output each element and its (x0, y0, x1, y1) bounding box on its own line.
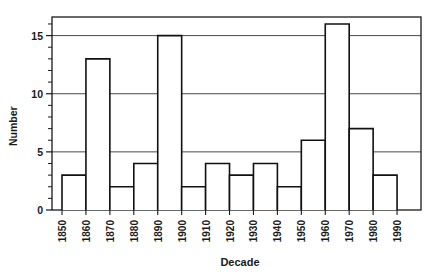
bar-fill-1890 (158, 36, 182, 210)
chart-canvas: 051015 185018601870188018901900191019201… (0, 0, 438, 278)
x-axis-tick-labels: 1850186018701880189019001910192019301940… (57, 220, 403, 243)
bar-1870 (110, 187, 134, 210)
x-tick-label-1890: 1890 (153, 220, 164, 243)
y-tick-label-10: 10 (31, 88, 43, 100)
bar-1860 (86, 59, 110, 210)
bar-fill-1860 (86, 59, 110, 210)
x-tick-label-1860: 1860 (81, 220, 92, 243)
bar-fill-1980 (373, 175, 397, 210)
x-tick-label-1990: 1990 (392, 220, 403, 243)
bar-fill-1900 (182, 187, 206, 210)
bar-fill-1920 (230, 175, 254, 210)
bar-1930 (253, 163, 277, 210)
y-axis-title: Number (7, 106, 19, 146)
bar-1890 (158, 36, 182, 210)
bar-fill-1930 (253, 163, 277, 210)
x-tick-label-1950: 1950 (296, 220, 307, 243)
y-tick-label-0: 0 (37, 204, 43, 216)
bar-fill-1850 (62, 175, 86, 210)
bar-1970 (349, 129, 373, 210)
x-tick-label-1920: 1920 (225, 220, 236, 243)
bar-fill-1870 (110, 187, 134, 210)
x-tick-label-1930: 1930 (248, 220, 259, 243)
x-tick-label-1900: 1900 (177, 220, 188, 243)
bar-fill-1970 (349, 129, 373, 210)
bar-1980 (373, 175, 397, 210)
x-tick-label-1980: 1980 (368, 220, 379, 243)
x-tick-label-1850: 1850 (57, 220, 68, 243)
bar-1910 (206, 163, 230, 210)
bar-1880 (134, 163, 158, 210)
bar-fill-1910 (206, 163, 230, 210)
bar-1960 (325, 24, 349, 210)
bar-fill-1880 (134, 163, 158, 210)
x-tick-label-1870: 1870 (105, 220, 116, 243)
x-tick-label-1960: 1960 (320, 220, 331, 243)
x-tick-label-1910: 1910 (201, 220, 212, 243)
bar-1950 (301, 140, 325, 210)
y-tick-label-15: 15 (31, 30, 43, 42)
bar-1900 (182, 187, 206, 210)
x-tick-label-1970: 1970 (344, 220, 355, 243)
bar-fill-1940 (277, 187, 301, 210)
histogram-chart: 051015 185018601870188018901900191019201… (0, 0, 438, 278)
x-tick-label-1940: 1940 (272, 220, 283, 243)
bar-1940 (277, 187, 301, 210)
x-tick-label-1880: 1880 (129, 220, 140, 243)
x-axis-title: Decade (220, 256, 259, 268)
bar-fill-1950 (301, 140, 325, 210)
bar-fill-1960 (325, 24, 349, 210)
y-tick-label-5: 5 (37, 146, 43, 158)
bar-1850 (62, 175, 86, 210)
bar-1920 (230, 175, 254, 210)
